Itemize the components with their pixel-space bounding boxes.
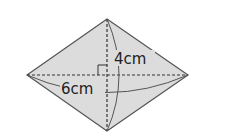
rhombus-diagram: 4cm 6cm bbox=[0, 0, 240, 135]
horizontal-diagonal-label: 6cm bbox=[61, 80, 93, 98]
vertical-diagonal-label: 4cm bbox=[114, 50, 146, 68]
